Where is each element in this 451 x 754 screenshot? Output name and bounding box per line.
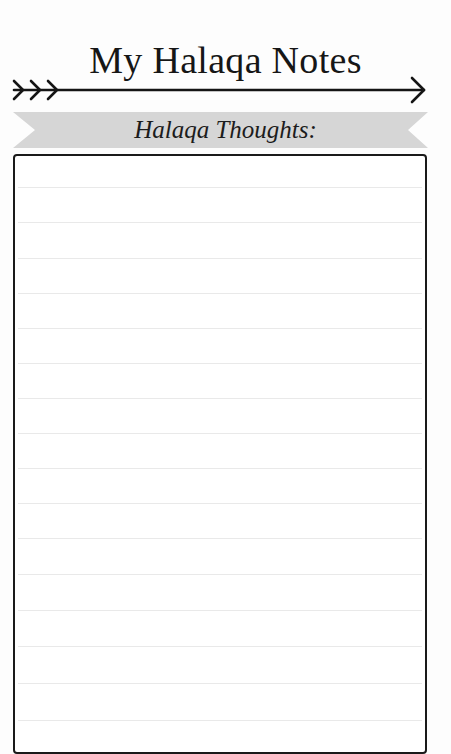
ruled-line <box>18 222 422 223</box>
ruled-line <box>18 187 422 188</box>
ruled-line <box>18 503 422 504</box>
ruled-line <box>18 398 422 399</box>
ruled-line <box>18 683 422 684</box>
ruled-line <box>18 468 422 469</box>
notes-area[interactable] <box>13 154 427 754</box>
ruled-line <box>18 574 422 575</box>
section-heading: Halaqa Thoughts: <box>0 113 451 147</box>
ruled-line <box>18 538 422 539</box>
ruled-line <box>18 258 422 259</box>
ruled-line <box>18 720 422 721</box>
ruled-line <box>18 328 422 329</box>
ruled-line <box>18 293 422 294</box>
arrow-icon <box>0 72 451 112</box>
ruled-line <box>18 363 422 364</box>
ruled-line <box>18 433 422 434</box>
ruled-line <box>18 646 422 647</box>
ruled-line <box>18 610 422 611</box>
